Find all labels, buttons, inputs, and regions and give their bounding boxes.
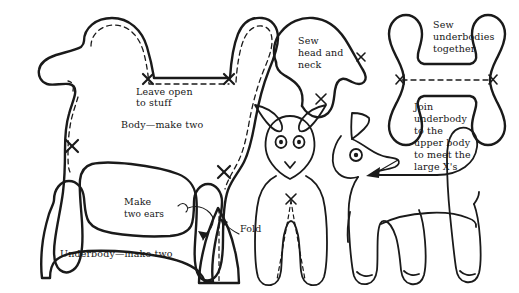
label-make-two-ears-line1: Make: [124, 196, 152, 207]
label-fold: Fold: [240, 223, 262, 234]
label-sew-head-neck-line1: Sew: [298, 35, 319, 46]
label-sew-underbodies-line1: Sew: [433, 19, 454, 30]
label-sew-underbodies-line3: together: [433, 43, 476, 54]
label-leave-open-line1: Leave open: [136, 86, 193, 97]
label-join-underbody-line3: to the: [414, 125, 443, 136]
label-body-make-two: Body—make two: [121, 119, 203, 130]
label-sew-underbodies-line2: underbodies: [433, 31, 495, 42]
label-leave-open-line2: to stuff: [136, 97, 173, 108]
label-sew-head-neck-line2: head and: [298, 47, 344, 58]
label-join-underbody-line4: upper body: [414, 137, 471, 148]
label-join-underbody-line2: underbody: [414, 113, 468, 124]
pattern-diagram-labels: Leave open to stuff Body—make two Sew he…: [0, 0, 519, 293]
label-underbody-make-two: Underbody—make two: [60, 248, 173, 259]
label-sew-head-neck-line3: neck: [298, 59, 322, 70]
label-make-two-ears-line2: two ears: [124, 209, 164, 219]
label-join-underbody-line5: to meet the: [414, 149, 471, 160]
pattern-diagram-canvas: Leave open to stuff Body—make two Sew he…: [0, 0, 519, 293]
label-join-underbody-line6: large X's: [414, 161, 458, 172]
label-join-underbody-line1: Join: [413, 101, 433, 112]
